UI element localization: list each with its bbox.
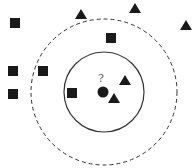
triangle-point [129, 3, 141, 13]
triangle-point [108, 93, 120, 103]
square-point [10, 18, 20, 28]
triangle-point [75, 9, 87, 19]
triangle-point [180, 20, 192, 30]
square-point [106, 33, 116, 43]
knn-diagram: ? [0, 0, 195, 168]
query-label: ? [98, 73, 104, 84]
square-point [8, 89, 18, 99]
query-point [98, 87, 109, 98]
square-point [8, 66, 18, 76]
square-point [67, 88, 77, 98]
square-point [38, 66, 48, 76]
triangle-point [119, 75, 131, 85]
